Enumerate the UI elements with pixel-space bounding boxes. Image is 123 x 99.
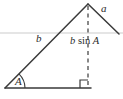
label-side-b: b <box>36 33 42 44</box>
right-angle-marker <box>80 80 88 88</box>
label-side-a: a <box>101 3 107 14</box>
label-angle-a: A <box>15 76 22 87</box>
label-altitude-expression: b sin A <box>70 36 99 47</box>
altitude-term-sin: sin <box>78 35 90 46</box>
altitude-term-angle: A <box>93 35 99 46</box>
triangle-figure: a b A b sin A <box>0 0 123 99</box>
